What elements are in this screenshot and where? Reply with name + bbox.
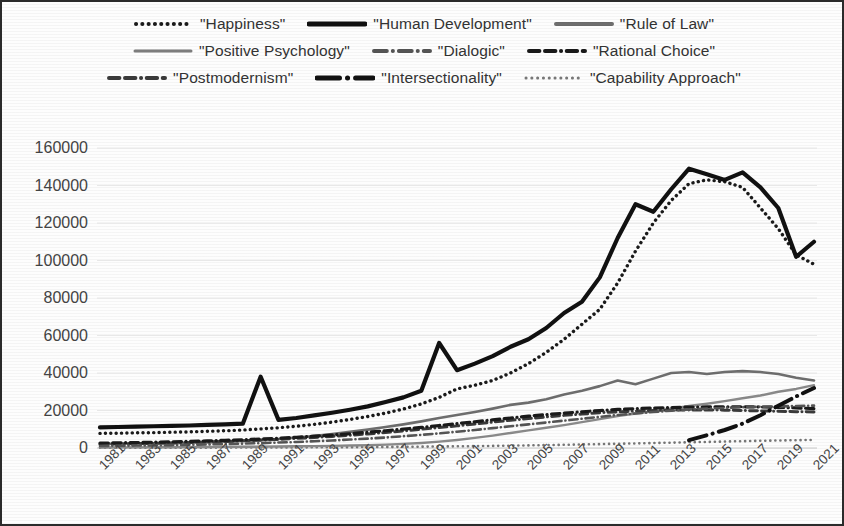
legend-row: "Postmodernism""Intersectionality""Capab… bbox=[2, 64, 844, 91]
chart-plot-area bbox=[97, 124, 817, 458]
legend-line-swatch bbox=[554, 17, 614, 31]
legend-item[interactable]: "Dialogic" bbox=[372, 42, 505, 60]
chart-frame: "Happiness""Human Development""Rule of L… bbox=[0, 0, 844, 526]
legend-item-label: "Positive Psychology" bbox=[199, 42, 350, 60]
legend-item[interactable]: "Postmodernism" bbox=[107, 69, 293, 87]
legend-item-label: "Dialogic" bbox=[438, 42, 505, 60]
legend-line-swatch bbox=[133, 44, 193, 58]
y-axis-tick-label: 80000 bbox=[44, 289, 89, 307]
legend-item[interactable]: "Positive Psychology" bbox=[133, 42, 350, 60]
legend-item-label: "Capability Approach" bbox=[590, 69, 741, 87]
y-axis-tick-label: 40000 bbox=[44, 364, 89, 382]
legend-line-swatch bbox=[307, 17, 367, 31]
legend-item-label: "Happiness" bbox=[200, 15, 285, 33]
legend-item[interactable]: "Human Development" bbox=[307, 15, 532, 33]
legend-line-swatch bbox=[524, 71, 584, 85]
y-axis-tick-label: 20000 bbox=[44, 402, 89, 420]
y-axis-tick-label: 100000 bbox=[35, 252, 88, 270]
legend-item[interactable]: "Capability Approach" bbox=[524, 69, 741, 87]
legend-line-swatch bbox=[107, 71, 167, 85]
legend-item-label: "Intersectionality" bbox=[381, 69, 502, 87]
legend-item-label: "Human Development" bbox=[373, 15, 532, 33]
plot-wrapper: 1600001400001200001000008000060000400002… bbox=[2, 124, 844, 526]
legend-row: "Happiness""Human Development""Rule of L… bbox=[2, 10, 844, 37]
legend-item[interactable]: "Intersectionality" bbox=[315, 69, 502, 87]
legend-item-label: "Rational Choice" bbox=[593, 42, 715, 60]
y-axis-tick-label: 60000 bbox=[44, 327, 89, 345]
chart-legend: "Happiness""Human Development""Rule of L… bbox=[2, 10, 844, 91]
legend-item[interactable]: "Happiness" bbox=[134, 15, 285, 33]
y-axis-labels: 1600001400001200001000008000060000400002… bbox=[2, 124, 94, 454]
legend-item-label: "Rule of Law" bbox=[620, 15, 714, 33]
x-axis-labels: 1981198319851987198919911993199519971999… bbox=[2, 454, 844, 526]
legend-line-swatch bbox=[527, 44, 587, 58]
legend-line-swatch bbox=[315, 71, 375, 85]
legend-row: "Positive Psychology""Dialogic""Rational… bbox=[2, 37, 844, 64]
y-axis-tick-label: 120000 bbox=[35, 214, 88, 232]
y-axis-tick-label: 160000 bbox=[35, 139, 88, 157]
y-axis-tick-label: 140000 bbox=[35, 177, 88, 195]
legend-item[interactable]: "Rule of Law" bbox=[554, 15, 714, 33]
legend-item[interactable]: "Rational Choice" bbox=[527, 42, 715, 60]
series-line bbox=[100, 180, 814, 434]
legend-item-label: "Postmodernism" bbox=[173, 69, 293, 87]
legend-line-swatch bbox=[372, 44, 432, 58]
legend-line-swatch bbox=[134, 17, 194, 31]
